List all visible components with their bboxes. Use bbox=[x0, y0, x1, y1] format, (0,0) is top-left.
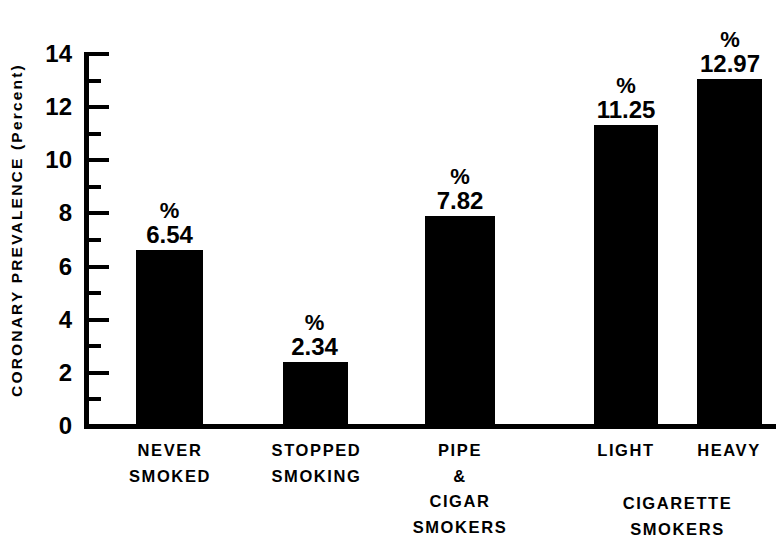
group-label-cigarette-smokers: CIGARETTE SMOKERS bbox=[578, 491, 777, 542]
category-line: SMOKERS bbox=[395, 515, 525, 541]
y-tick-mark bbox=[89, 265, 109, 269]
bar-value: 6.54 bbox=[136, 223, 203, 248]
y-tick-mark bbox=[89, 344, 101, 348]
y-tick-mark bbox=[89, 185, 101, 189]
category-label-heavy: HEAVY bbox=[681, 438, 777, 464]
group-caption-line: SMOKERS bbox=[578, 517, 777, 543]
category-line: CIGAR bbox=[395, 489, 525, 515]
category-line: NEVER bbox=[110, 438, 230, 464]
category-label-light: LIGHT bbox=[578, 438, 674, 464]
bar-stopped-smoking bbox=[283, 362, 348, 424]
bar-value-label-heavy-cigarette-smokers: % 12.97 bbox=[688, 29, 772, 77]
y-tick-label: 10 bbox=[45, 148, 84, 172]
y-tick-mark bbox=[89, 238, 101, 242]
y-tick-label: 6 bbox=[59, 255, 84, 279]
bar-value-label-never-smoked: % 6.54 bbox=[136, 200, 203, 248]
y-tick-mark bbox=[89, 132, 101, 136]
group-caption-line: CIGARETTE bbox=[578, 491, 777, 517]
y-tick-mark bbox=[89, 105, 109, 109]
percent-sign: % bbox=[136, 200, 203, 223]
bar-value: 11.25 bbox=[585, 98, 667, 123]
bar-heavy-cigarette-smokers bbox=[697, 79, 762, 424]
y-axis-title: CORONARY PREVALENCE (Percent) bbox=[0, 0, 34, 460]
bar-value-label-pipe-and-cigar-smokers: % 7.82 bbox=[425, 166, 495, 214]
percent-sign: % bbox=[585, 75, 667, 98]
plot-area: 14 12 10 8 6 bbox=[84, 52, 776, 424]
y-tick-mark bbox=[89, 371, 109, 375]
percent-sign: % bbox=[688, 29, 772, 52]
category-line: STOPPED bbox=[249, 438, 384, 464]
category-line: SMOKING bbox=[249, 464, 384, 490]
bar-value: 7.82 bbox=[425, 189, 495, 214]
bar-chart-figure: CORONARY PREVALENCE (Percent) 14 12 10 8 bbox=[0, 0, 779, 549]
y-tick-label: 12 bbox=[45, 95, 84, 119]
bar-never-smoked bbox=[136, 250, 203, 424]
category-line: LIGHT bbox=[578, 438, 674, 464]
bar-value: 12.97 bbox=[688, 52, 772, 77]
bar-value-label-light-cigarette-smokers: % 11.25 bbox=[585, 75, 667, 123]
bar-value-label-stopped-smoking: % 2.34 bbox=[281, 312, 348, 360]
y-tick-label: 2 bbox=[59, 361, 84, 385]
category-label-stopped-smoking: STOPPED SMOKING bbox=[249, 438, 384, 489]
y-tick-mark bbox=[89, 291, 101, 295]
category-line: & bbox=[395, 464, 525, 490]
y-tick-label: 0 bbox=[59, 414, 84, 438]
y-tick-label: 8 bbox=[59, 201, 84, 225]
category-label-pipe-and-cigar-smokers: PIPE & CIGAR SMOKERS bbox=[395, 438, 525, 540]
bar-value: 2.34 bbox=[281, 335, 348, 360]
percent-sign: % bbox=[281, 312, 348, 335]
category-line: PIPE bbox=[395, 438, 525, 464]
y-tick-mark bbox=[89, 52, 109, 56]
y-tick-mark bbox=[89, 79, 101, 83]
x-axis-spine bbox=[84, 424, 776, 429]
percent-sign: % bbox=[425, 166, 495, 189]
y-tick-mark bbox=[89, 397, 101, 401]
category-line: HEAVY bbox=[681, 438, 777, 464]
bar-pipe-and-cigar-smokers bbox=[425, 216, 495, 424]
y-tick-mark bbox=[89, 158, 109, 162]
y-tick-label: 14 bbox=[45, 42, 84, 66]
bar-light-cigarette-smokers bbox=[594, 125, 658, 424]
y-tick-mark bbox=[89, 211, 109, 215]
y-tick-mark bbox=[89, 318, 109, 322]
y-tick-label: 4 bbox=[59, 308, 84, 332]
category-label-never-smoked: NEVER SMOKED bbox=[110, 438, 230, 489]
category-line: SMOKED bbox=[110, 464, 230, 490]
